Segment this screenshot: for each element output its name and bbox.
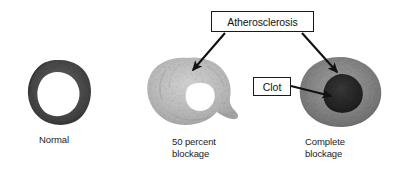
caption-fifty-percent: 50 percent blockage bbox=[172, 136, 262, 159]
caption-fifty-percent-line1: 50 percent bbox=[172, 136, 262, 148]
callout-atherosclerosis-label: Atherosclerosis bbox=[227, 16, 297, 28]
vessel-fifty-percent bbox=[147, 57, 238, 125]
caption-complete-blockage-line1: Complete bbox=[305, 136, 395, 148]
caption-normal-line1: Normal bbox=[39, 134, 119, 146]
callout-clot: Clot bbox=[253, 77, 291, 96]
figure-canvas: Atherosclerosis Clot Normal 50 percent b… bbox=[0, 0, 399, 180]
caption-complete-blockage: Complete blockage bbox=[305, 136, 395, 159]
caption-fifty-percent-line2: blockage bbox=[172, 148, 262, 160]
caption-complete-blockage-line2: blockage bbox=[305, 148, 395, 160]
callout-atherosclerosis: Atherosclerosis bbox=[211, 11, 314, 32]
caption-normal: Normal bbox=[39, 134, 119, 146]
vessel-normal bbox=[28, 60, 91, 125]
callout-clot-label: Clot bbox=[263, 81, 282, 93]
